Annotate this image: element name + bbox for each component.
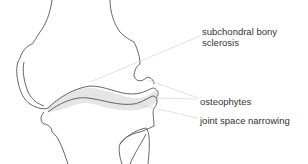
leader-osteophytes-2 [156,98,198,99]
knee-joint-diagram [0,0,308,164]
leader-narrowing [136,104,198,118]
label-line-1: subchondral bony [202,26,277,37]
sclerosis-band [48,88,158,112]
label-line-2: sclerosis [202,37,277,48]
label-joint-space-narrowing: joint space narrowing [200,115,290,126]
leader-sclerosis [90,36,200,82]
label-subchondral-sclerosis: subchondral bony sclerosis [202,26,277,48]
label-osteophytes: osteophytes [200,96,251,107]
